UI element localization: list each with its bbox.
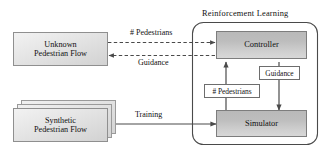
node-unknown-pedestrian-flow[interactable]: Unknown Pedestrian Flow [13,32,108,66]
reinforcement-learning-title: Reinforcement Learning [202,9,289,18]
unknown-pedestrian-flow-label: Unknown Pedestrian Flow [34,40,87,59]
edge-label-training: Training [135,110,162,119]
synthetic-pedestrian-flow-label: Synthetic Pedestrian Flow [34,116,87,135]
unknown-flow-label-line2: Pedestrian Flow [34,49,87,58]
node-synthetic-pedestrian-flow[interactable]: Synthetic Pedestrian Flow [13,108,108,142]
diagram-canvas: Reinforcement Learning Unknown Pedestria… [0,0,330,156]
edge-label-pedestrians-internal: # Pedestrians [204,84,260,98]
edge-label-guidance-internal: Guidance [259,66,300,80]
edge-label-guidance-outer: Guidance [138,58,169,67]
edge-label-pedestrians-outer: # Pedestrians [130,28,172,37]
synthetic-flow-label-line2: Pedestrian Flow [34,125,87,134]
node-simulator[interactable]: Simulator [216,110,307,137]
simulator-label: Simulator [245,119,278,129]
node-controller[interactable]: Controller [216,31,307,59]
synthetic-flow-label-line1: Synthetic [34,116,87,125]
controller-label: Controller [244,40,278,50]
unknown-flow-label-line1: Unknown [34,40,87,49]
